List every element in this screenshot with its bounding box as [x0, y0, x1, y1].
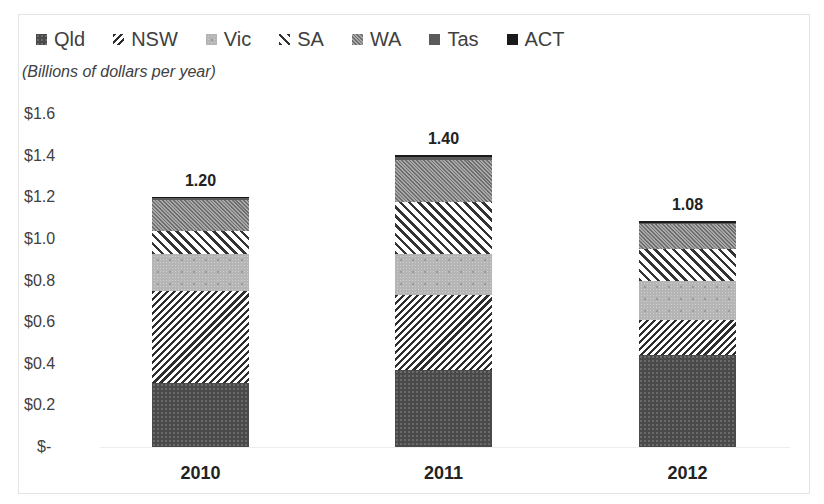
- legend-swatch-icon: [507, 34, 518, 45]
- bar-segment-nsw: [639, 320, 736, 355]
- legend-item-act: ACT: [507, 28, 565, 51]
- bar-segment-wa: [395, 160, 492, 202]
- bar-total-label: 1.40: [395, 130, 492, 148]
- legend-swatch-icon: [206, 34, 217, 45]
- y-tick-label: $0.4: [24, 355, 68, 373]
- legend-item-sa: SA: [279, 28, 324, 51]
- legend-item-wa: WA: [352, 28, 401, 51]
- x-tick-label: 2010: [152, 463, 249, 484]
- y-tick-label: $1.0: [24, 230, 68, 248]
- y-tick-label: $0.6: [24, 313, 68, 331]
- y-tick-label: $1.6: [24, 105, 68, 123]
- x-tick-label: 2011: [395, 463, 492, 484]
- legend-label: ACT: [525, 28, 565, 51]
- bar-segment-sa: [395, 202, 492, 254]
- stacked-bar-2011: [395, 155, 492, 447]
- bar-segment-qld: [395, 370, 492, 447]
- legend-label: NSW: [131, 28, 178, 51]
- bar-segment-sa: [152, 231, 249, 254]
- legend-label: SA: [297, 28, 324, 51]
- y-tick-label: $1.2: [24, 188, 68, 206]
- y-tick-label: $0.2: [24, 396, 68, 414]
- legend-label: Qld: [54, 28, 85, 51]
- bar-segment-nsw: [152, 291, 249, 383]
- bar-segment-qld: [152, 383, 249, 447]
- bar-segment-qld: [639, 355, 736, 447]
- y-tick-label: $1.4: [24, 147, 68, 165]
- legend-label: WA: [370, 28, 401, 51]
- x-axis-baseline: [100, 447, 790, 448]
- legend-swatch-icon: [113, 34, 124, 45]
- bar-segment-vic: [152, 254, 249, 291]
- legend-swatch-icon: [429, 34, 440, 45]
- y-tick-label: $0.8: [24, 272, 68, 290]
- chart-legend: QldNSWVicSAWATasACT: [36, 26, 593, 52]
- bar-segment-wa: [639, 224, 736, 249]
- legend-label: Vic: [224, 28, 251, 51]
- x-tick-label: 2012: [639, 463, 736, 484]
- legend-swatch-icon: [352, 34, 363, 45]
- stacked-bar-2010: [152, 197, 249, 447]
- legend-label: Tas: [447, 28, 478, 51]
- legend-item-vic: Vic: [206, 28, 251, 51]
- bar-total-label: 1.20: [152, 172, 249, 190]
- legend-swatch-icon: [279, 34, 290, 45]
- bar-segment-wa: [152, 200, 249, 231]
- bar-segment-vic: [395, 254, 492, 296]
- bar-segment-nsw: [395, 295, 492, 370]
- legend-swatch-icon: [36, 34, 47, 45]
- y-tick-label: $-: [24, 438, 81, 456]
- bar-segment-vic: [639, 281, 736, 321]
- bar-total-label: 1.08: [639, 196, 736, 214]
- legend-item-tas: Tas: [429, 28, 478, 51]
- chart-subtitle: (Billions of dollars per year): [22, 63, 216, 81]
- stacked-bar-2012: [639, 221, 736, 447]
- legend-item-nsw: NSW: [113, 28, 178, 51]
- legend-item-qld: Qld: [36, 28, 85, 51]
- bar-segment-sa: [639, 249, 736, 280]
